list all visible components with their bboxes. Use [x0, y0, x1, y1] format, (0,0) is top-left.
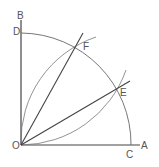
label-D: D: [13, 27, 20, 37]
arc-from-D: [21, 70, 126, 145]
label-F: F: [83, 42, 89, 52]
arc-CD: [21, 33, 131, 145]
label-A: A: [141, 141, 148, 151]
label-O: O: [12, 141, 20, 151]
label-E: E: [120, 88, 127, 98]
arc-from-C: [21, 37, 96, 145]
trisection-diagram: [0, 0, 159, 167]
ray-OE: [21, 81, 130, 145]
label-C: C: [126, 150, 133, 160]
ray-OF: [21, 33, 83, 145]
label-B: B: [17, 11, 24, 21]
